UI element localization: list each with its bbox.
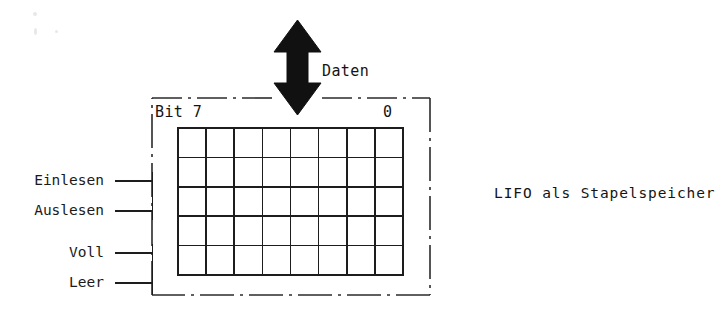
- signal-label-auslesen: Auslesen: [0, 202, 104, 218]
- signal-label-leer: Leer: [0, 274, 104, 290]
- data-bus-double-arrow: [0, 0, 723, 334]
- lifo-stack-diagram: Bit 7 0 Daten LIFO als Stapelspeicher Ei…: [0, 0, 723, 334]
- data-arrow-label: Daten: [322, 62, 369, 80]
- signal-label-einlesen: Einlesen: [0, 172, 104, 188]
- signal-label-voll: Voll: [0, 244, 104, 260]
- diagram-caption: LIFO als Stapelspeicher: [494, 185, 715, 201]
- bit-lsb-label: 0: [383, 103, 392, 121]
- bit-msb-label: Bit 7: [155, 103, 202, 121]
